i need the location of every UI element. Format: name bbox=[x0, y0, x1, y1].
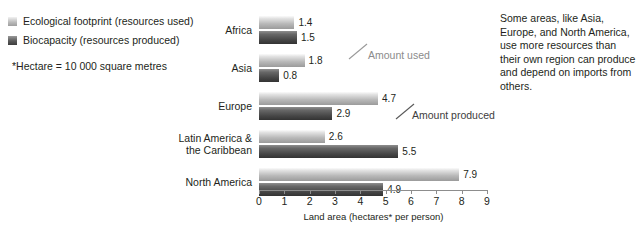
plot-area: 1.41.84.72.67.91.50.82.95.54.9 bbox=[259, 12, 487, 190]
category-axis-labels: AfricaAsiaEuropeLatin America &the Carib… bbox=[140, 12, 252, 192]
category-label-line: North America bbox=[140, 176, 252, 189]
bar-used bbox=[259, 168, 459, 181]
bar-produced bbox=[259, 107, 332, 120]
bar-used bbox=[259, 92, 378, 105]
x-axis-tick-label: 9 bbox=[477, 195, 497, 207]
annotation-amount-produced: Amount produced bbox=[412, 109, 495, 121]
x-axis-line bbox=[259, 190, 488, 191]
category-label: Latin America &the Caribbean bbox=[140, 132, 252, 157]
category-label-line: Africa bbox=[140, 24, 252, 37]
x-axis-tick-label: 0 bbox=[249, 195, 269, 207]
category-label: Asia bbox=[140, 62, 252, 75]
bar-used bbox=[259, 54, 305, 67]
bar-value-label: 2.9 bbox=[336, 107, 350, 120]
legend-swatch-ecological-footprint bbox=[8, 17, 17, 26]
x-axis-tick-label: 3 bbox=[325, 195, 345, 207]
x-axis-title: Land area (hectares* per person) bbox=[259, 211, 488, 222]
x-axis-tick bbox=[487, 190, 488, 194]
bar-value-label: 5.5 bbox=[402, 145, 416, 158]
x-axis-tick-label: 8 bbox=[452, 195, 472, 207]
bar-produced bbox=[259, 69, 279, 82]
x-axis-tick bbox=[310, 190, 311, 194]
x-axis-tick-label: 4 bbox=[350, 195, 370, 207]
x-axis-tick-label: 1 bbox=[274, 195, 294, 207]
x-axis-tick bbox=[259, 190, 260, 194]
x-axis-tick-label: 5 bbox=[376, 195, 396, 207]
category-label: North America bbox=[140, 176, 252, 189]
bar-value-label: 1.5 bbox=[301, 31, 315, 44]
side-note-text: Some areas, like Asia, Europe, and North… bbox=[500, 12, 636, 94]
category-label-line: Latin America & bbox=[140, 132, 252, 145]
x-axis-tick-label: 7 bbox=[426, 195, 446, 207]
bar-value-label: 0.8 bbox=[283, 69, 297, 82]
category-label: Africa bbox=[140, 24, 252, 37]
category-label-line: Europe bbox=[140, 100, 252, 113]
x-axis-tick bbox=[436, 190, 437, 194]
bar-value-label: 7.9 bbox=[463, 168, 477, 181]
x-axis-tick bbox=[284, 190, 285, 194]
bar-value-label: 1.4 bbox=[298, 16, 312, 29]
category-label-line: Asia bbox=[140, 62, 252, 75]
x-axis-tick-label: 6 bbox=[401, 195, 421, 207]
bar-used bbox=[259, 16, 294, 29]
bar-value-label: 1.8 bbox=[309, 54, 323, 67]
x-axis-tick bbox=[411, 190, 412, 194]
bar-produced bbox=[259, 31, 297, 44]
x-axis-tick bbox=[462, 190, 463, 194]
legend-swatch-biocapacity bbox=[8, 36, 17, 45]
bar-value-label: 4.7 bbox=[382, 92, 396, 105]
bar-value-label: 2.6 bbox=[329, 130, 343, 143]
chart-figure: Ecological footprint (resources used) Bi… bbox=[0, 0, 640, 229]
category-label: Europe bbox=[140, 100, 252, 113]
x-axis-tick bbox=[335, 190, 336, 194]
x-axis-tick-label: 2 bbox=[300, 195, 320, 207]
bar-used bbox=[259, 130, 325, 143]
x-axis-tick bbox=[386, 190, 387, 194]
annotation-amount-used: Amount used bbox=[368, 49, 430, 61]
x-axis-tick bbox=[360, 190, 361, 194]
bar-produced bbox=[259, 145, 398, 158]
category-label-line: the Caribbean bbox=[140, 144, 252, 157]
